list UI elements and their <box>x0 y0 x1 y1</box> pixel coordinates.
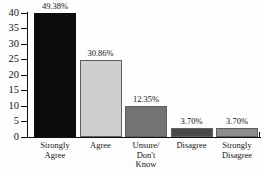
y-axis-tick-label: 40 <box>0 8 19 19</box>
category-label-line: Agree <box>28 151 82 161</box>
bar-chart: 0510152025303540 49.38%30.86%12.35%3.70%… <box>0 0 262 171</box>
y-axis-tick-label: 35 <box>0 23 19 34</box>
bar <box>216 128 258 137</box>
bar <box>171 128 213 137</box>
x-axis-end-tick <box>259 132 260 138</box>
bar-value-label: 3.70% <box>209 117 262 126</box>
y-axis-tick <box>21 13 27 14</box>
category-label-line: Disagree <box>210 151 262 161</box>
y-axis-tick-label: 10 <box>0 101 19 112</box>
bar-value-label: 49.38% <box>27 2 83 11</box>
bar-value-label: 30.86% <box>73 49 129 58</box>
y-axis-line <box>27 12 28 138</box>
x-axis-line <box>27 137 261 138</box>
y-axis-tick-label: 30 <box>0 39 19 50</box>
bar <box>34 13 76 137</box>
y-axis-tick-label: 5 <box>0 116 19 127</box>
bar <box>80 60 122 138</box>
y-axis-tick-label: 0 <box>0 132 19 143</box>
x-axis-category-label: StronglyDisagree <box>210 141 262 160</box>
y-axis-tick <box>21 44 27 45</box>
y-axis-tick <box>21 106 27 107</box>
y-axis-tick-label: 25 <box>0 54 19 65</box>
y-axis-tick <box>21 137 27 138</box>
y-axis-tick <box>21 28 27 29</box>
y-axis-tick-label: 15 <box>0 85 19 96</box>
y-axis-tick <box>21 121 27 122</box>
y-axis-tick <box>21 90 27 91</box>
y-axis-tick <box>21 59 27 60</box>
y-axis-tick-label: 20 <box>0 70 19 81</box>
bar <box>125 106 167 137</box>
bar-value-label: 12.35% <box>118 95 174 104</box>
y-axis-tick <box>21 75 27 76</box>
category-label-line: Know <box>119 160 173 170</box>
